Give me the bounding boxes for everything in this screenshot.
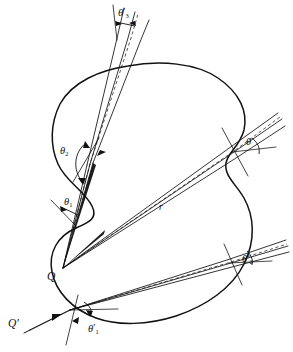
label-source-q-prime: Q′ [8,318,19,330]
q-vertex-wedge-shape-2 [63,230,105,268]
label-theta-prime-3-subscript: 3 [125,12,128,19]
label-theta-prime-2: θ′2 [242,254,253,265]
label-theta-1-subscript: 1 [69,201,72,208]
arrow-theta-prime-1-left [72,317,79,324]
label-theta-prime-2-subscript: 2 [249,258,252,265]
arc-theta [252,138,259,154]
ray-qp-r1 [70,240,286,310]
reference-line-theta [232,147,276,152]
ray-bundle-q-right [63,113,285,268]
label-q-prime-base: Q′ [8,317,19,329]
qprime-incoming-ray [30,310,70,330]
label-theta-2-subscript: 2 [65,150,68,157]
optics-ray-diagram-figure: Q Q′ r θ θ1 θ2 θ′1 θ′2 θ′3 [0,0,293,352]
label-theta-prime-1: θ′1 [88,324,99,335]
qprime-tail-group [24,330,30,333]
angle-arcs-group [61,22,259,315]
ray-bundle-qprime-right [70,240,289,310]
qprime-tail [24,330,30,333]
ray-q-u3-out [93,20,149,163]
qprime-incoming-ray-group [30,310,70,330]
label-theta-2: θ2 [60,146,68,157]
qprime-arrowhead [52,314,62,321]
label-radius-r: r [159,203,163,213]
arrow-theta2-top [83,141,90,148]
arrow-tangent-theta2 [97,150,106,156]
ray-q-r3 [63,126,285,268]
ray-qp-r2 [70,246,288,310]
qprime-arrowhead-shape [52,314,62,321]
label-theta-prime-3: θ′3 [118,8,129,19]
ray-q-u1-out [87,8,124,165]
ray-bundle-q-upper [63,8,149,268]
label-theta: θ [246,137,251,148]
label-theta-1: θ1 [64,197,72,208]
label-source-q: Q [47,271,55,283]
ray-qp-r3 [70,252,289,310]
diagram-canvas [0,0,293,352]
label-theta-prime-1-subscript: 1 [95,328,98,335]
